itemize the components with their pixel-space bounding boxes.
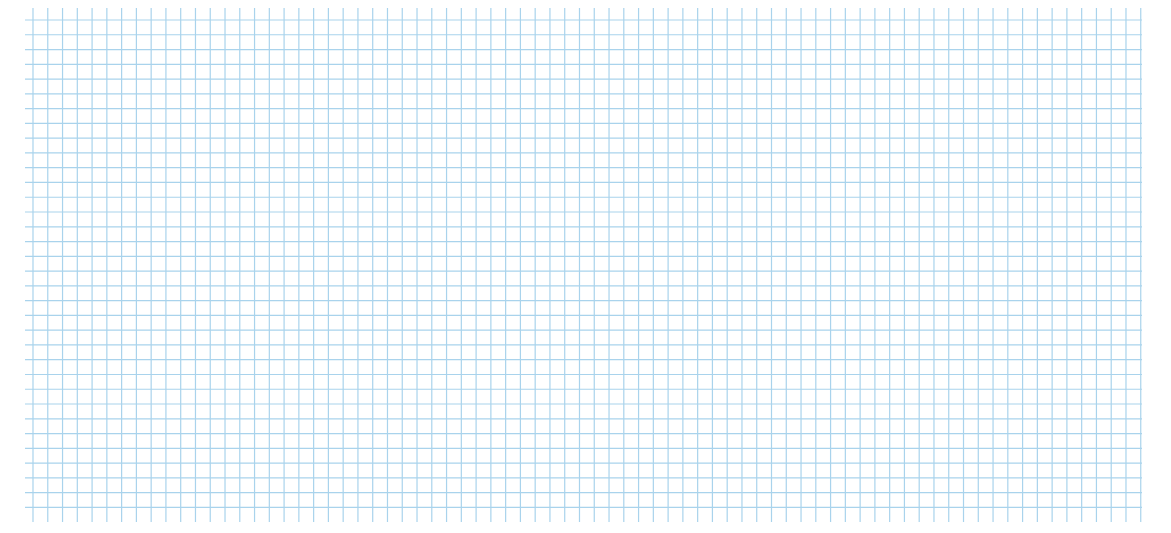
graph-paper-grid: [25, 8, 1142, 522]
circles-on-grid-diagram: 2.0 cm Area 12.6 cm2 2.4 cm Area 18.1 cm…: [0, 0, 1171, 533]
